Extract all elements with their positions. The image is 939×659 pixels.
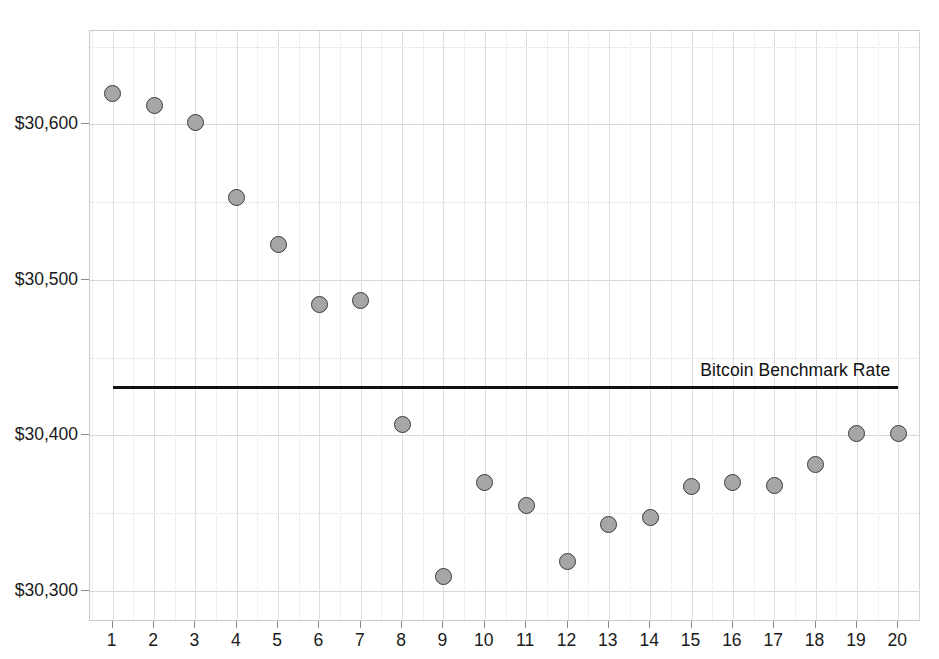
gridline-vertical [816,31,817,620]
x-axis-tick-mark [360,621,361,628]
gridline-vertical-minor [712,31,713,620]
y-axis-tick-mark [81,279,89,280]
gridline-vertical-minor [547,31,548,620]
gridline-vertical-minor [133,31,134,620]
y-axis: $30,300$30,400$30,500$30,600 [0,0,78,659]
gridline-vertical-minor [175,31,176,620]
x-axis-tick-label: 15 [681,630,700,651]
x-axis-tick-label: 12 [557,630,576,651]
y-axis-tick-mark [81,590,89,591]
data-point-marker [187,114,204,131]
y-axis-tick-label: $30,500 [15,268,78,289]
data-point-marker [890,425,907,442]
gridline-vertical [568,31,569,620]
data-point-marker [683,478,700,495]
x-axis-tick-mark [153,621,154,628]
gridline-vertical-minor [671,31,672,620]
x-axis-tick-mark [442,621,443,628]
y-axis-tick-label: $30,600 [15,113,78,134]
x-axis-tick-mark [732,621,733,628]
data-point-marker [642,509,659,526]
x-axis-tick-label: 14 [639,630,658,651]
gridline-vertical-minor [340,31,341,620]
benchmark-reference-line [113,386,899,389]
x-axis-tick-mark [401,621,402,628]
x-axis-tick-mark [277,621,278,628]
data-point-marker [848,425,865,442]
gridline-vertical-minor [919,31,920,620]
gridline-vertical [443,31,444,620]
x-axis-tick-mark [567,621,568,628]
data-point-marker [807,456,824,473]
gridline-vertical [402,31,403,620]
x-axis-tick-mark [815,621,816,628]
y-axis-tick-label: $30,400 [15,424,78,445]
data-point-marker [766,477,783,494]
y-axis-tick-label: $30,300 [15,579,78,600]
gridline-vertical [361,31,362,620]
x-axis-tick-label: 11 [516,630,534,651]
data-point-marker [270,236,287,253]
x-axis-tick-label: 5 [272,630,282,651]
x-axis-tick-mark [608,621,609,628]
data-point-marker [146,97,163,114]
x-axis-tick-mark [897,621,898,628]
gridline-vertical [650,31,651,620]
x-axis-tick-label: 13 [598,630,617,651]
gridline-vertical-minor [423,31,424,620]
data-point-marker [724,474,741,491]
x-axis-tick-label: 3 [190,630,200,651]
gridline-vertical-minor [836,31,837,620]
y-axis-tick-mark [81,434,89,435]
gridline-vertical [485,31,486,620]
data-point-marker [559,553,576,570]
x-axis-tick-label: 16 [722,630,741,651]
x-axis-tick-mark [112,621,113,628]
x-axis-tick-mark [236,621,237,628]
gridline-vertical [154,31,155,620]
data-point-marker [518,497,535,514]
gridline-vertical-minor [506,31,507,620]
gridline-vertical-minor [257,31,258,620]
data-point-marker [311,296,328,313]
gridline-vertical [526,31,527,620]
x-axis-tick-mark [856,621,857,628]
x-axis-tick-label: 9 [438,630,448,651]
data-point-marker [352,292,369,309]
gridline-vertical-minor [216,31,217,620]
gridline-vertical-minor [795,31,796,620]
gridline-vertical-minor [754,31,755,620]
x-axis-tick-mark [649,621,650,628]
x-axis-tick-label: 20 [888,630,907,651]
data-point-marker [228,189,245,206]
gridline-vertical [113,31,114,620]
data-point-marker [394,416,411,433]
gridline-vertical [278,31,279,620]
x-axis-tick-label: 8 [396,630,406,651]
x-axis-tick-label: 6 [314,630,324,651]
gridline-vertical-minor [299,31,300,620]
plot-area: Bitcoin Benchmark Rate [89,30,920,621]
gridline-vertical [733,31,734,620]
data-point-marker [600,516,617,533]
gridline-vertical-minor [878,31,879,620]
gridline-vertical [237,31,238,620]
x-axis-tick-label: 4 [231,630,241,651]
x-axis-tick-mark [318,621,319,628]
gridline-vertical-minor [464,31,465,620]
gridline-vertical [319,31,320,620]
x-axis-tick-label: 17 [763,630,782,651]
x-axis-tick-label: 19 [846,630,865,651]
gridline-vertical [692,31,693,620]
data-point-marker [435,568,452,585]
data-point-marker [104,85,121,102]
gridline-vertical [774,31,775,620]
gridline-vertical-minor [381,31,382,620]
scatter-chart: $30,300$30,400$30,500$30,600 Bitcoin Ben… [0,0,939,659]
x-axis-tick-mark [691,621,692,628]
gridline-vertical-minor [630,31,631,620]
x-axis-tick-label: 18 [805,630,824,651]
x-axis-tick-label: 7 [355,630,365,651]
x-axis-tick-mark [773,621,774,628]
gridline-vertical-minor [588,31,589,620]
